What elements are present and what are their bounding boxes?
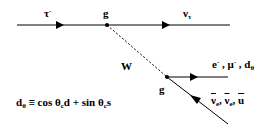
label-w: W	[121, 60, 132, 72]
w-boson-line	[107, 25, 167, 77]
label-anti-u: u	[238, 94, 244, 106]
arrow-outgoing-lower-icon	[190, 95, 201, 104]
label-tau: τ-	[44, 8, 51, 19]
label-nu-sub: τ	[188, 13, 191, 21]
label-g-top: g	[103, 7, 109, 19]
label-vertex-bottom: g	[159, 84, 165, 95]
arrow-nu-tau-icon	[162, 21, 170, 29]
formula-mid: d + sin θ	[64, 96, 104, 108]
label-vertex-top: g	[103, 8, 109, 19]
formula-d-theta: dθ ≡ cos θcd + sin θcs	[16, 97, 111, 110]
vertex-top-icon	[105, 23, 109, 27]
label-g-bottom: g	[159, 83, 165, 95]
label-d-theta-sub: θ	[250, 64, 254, 72]
label-tau-sup: -	[49, 7, 51, 15]
formula-end: s	[107, 96, 111, 108]
label-outgoing-upper: e- , μ- , dθ	[212, 59, 254, 72]
arrow-tau-icon	[56, 21, 64, 29]
label-outgoing-lower: νe, νe, u	[211, 95, 244, 108]
formula-eq: ≡ cos θ	[26, 96, 61, 108]
label-w-boson: W	[121, 61, 132, 72]
arrow-outgoing-upper-icon	[190, 73, 198, 81]
label-nu-tau: ντ	[183, 8, 191, 21]
